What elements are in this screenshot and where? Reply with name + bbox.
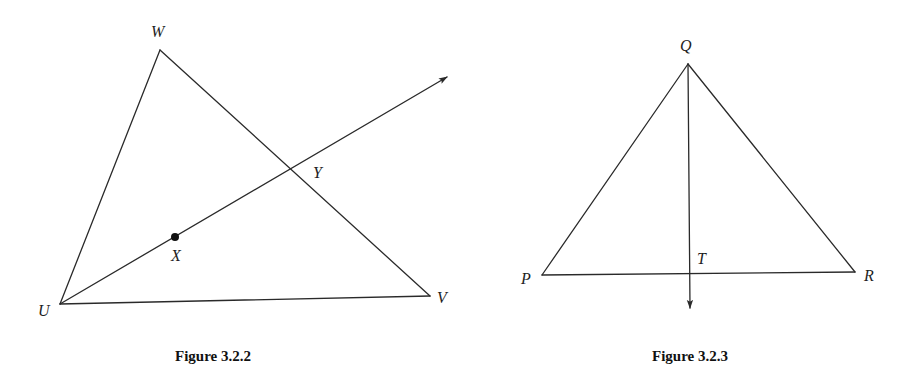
figure-3-2-2: W U V X Y Figure 3.2.2 xyxy=(38,23,449,364)
caption-figure-3-2-2: Figure 3.2.2 xyxy=(175,348,251,364)
label-Q: Q xyxy=(680,37,692,54)
ray-UX xyxy=(60,77,447,304)
label-P: P xyxy=(520,270,531,287)
segment-UV xyxy=(60,296,430,304)
point-X-dot xyxy=(171,233,179,241)
caption-figure-3-2-3: Figure 3.2.3 xyxy=(652,348,728,364)
segment-UW xyxy=(60,50,160,304)
label-U: U xyxy=(38,302,51,319)
label-W: W xyxy=(151,23,166,40)
label-X: X xyxy=(170,247,182,264)
label-T: T xyxy=(697,250,707,267)
segment-WV xyxy=(160,50,430,296)
segment-QR xyxy=(688,64,855,272)
label-R: R xyxy=(863,267,874,284)
label-V: V xyxy=(437,289,449,306)
segment-PR xyxy=(542,272,855,275)
label-Y: Y xyxy=(313,164,324,181)
geometry-figures: W U V X Y Figure 3.2.2 Q P R T Figure 3.… xyxy=(0,0,921,369)
ray-QT xyxy=(688,64,690,308)
figure-3-2-3: Q P R T Figure 3.2.3 xyxy=(520,37,874,364)
segment-PQ xyxy=(542,64,688,275)
